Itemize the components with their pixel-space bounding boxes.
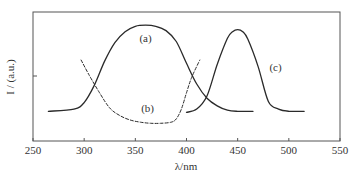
x-tick-label: 350 — [127, 144, 144, 156]
axes-box — [33, 12, 340, 141]
curve-label: (c) — [269, 61, 282, 74]
y-axis-label: I / (a.u.) — [4, 59, 17, 95]
curve-c — [187, 30, 305, 113]
x-tick-label: 400 — [178, 144, 195, 156]
curve-label: (b) — [141, 102, 154, 115]
x-tick-label: 250 — [25, 144, 42, 156]
plot-frame — [33, 12, 340, 141]
spectra-chart: 250300350400450500550 (a)(b)(c) λ/nm I /… — [0, 0, 357, 180]
curves — [48, 25, 304, 123]
x-tick-label: 450 — [229, 144, 246, 156]
x-tick-label: 300 — [76, 144, 93, 156]
x-tick-label: 550 — [332, 144, 349, 156]
curve-label: (a) — [139, 32, 152, 45]
x-axis-label: λ/nm — [175, 160, 198, 172]
x-tick-label: 500 — [281, 144, 298, 156]
